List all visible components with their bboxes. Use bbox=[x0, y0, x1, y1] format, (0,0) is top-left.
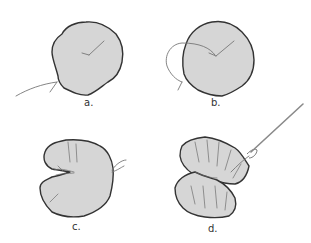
step-b-panel: b. bbox=[0, 0, 311, 120]
step-c-label: c. bbox=[72, 222, 81, 232]
step-d-label: d. bbox=[208, 224, 218, 234]
stitch-steps-figure: a. b. c. bbox=[0, 0, 311, 243]
step-c-panel: c. bbox=[0, 120, 155, 243]
step-d-panel: d. bbox=[155, 120, 311, 243]
step-b-label: b. bbox=[211, 98, 221, 108]
fabric-circle-b bbox=[183, 21, 254, 96]
step-b-illustration bbox=[0, 0, 311, 120]
step-d-illustration bbox=[155, 120, 311, 243]
thread-tail-b bbox=[178, 82, 182, 90]
